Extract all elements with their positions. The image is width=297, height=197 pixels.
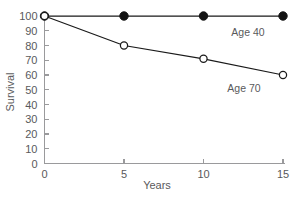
x-tick-label-5: 5 — [121, 168, 127, 180]
x-tick-label-15: 15 — [277, 168, 289, 180]
y-tick-label-20: 20 — [25, 128, 37, 140]
y-tick-label-100: 100 — [19, 10, 37, 22]
series-age-40 — [40, 12, 287, 20]
x-axis-title: Years — [143, 179, 171, 191]
data-point-marker — [279, 12, 287, 20]
data-point-marker — [120, 12, 128, 20]
series-label-age-70: Age 70 — [227, 82, 260, 94]
x-tick-label-0: 0 — [41, 168, 47, 180]
survival-chart: 100 90 80 70 60 50 40 30 20 10 0 0 5 10 … — [0, 0, 297, 197]
y-tick-label-40: 40 — [25, 99, 37, 111]
data-point-marker — [199, 12, 207, 20]
x-axis-tick-marks — [45, 159, 284, 164]
y-tick-label-0: 0 — [31, 158, 37, 170]
data-point-marker — [41, 12, 48, 19]
y-axis-tick-labels: 100 90 80 70 60 50 40 30 20 10 0 — [19, 10, 37, 170]
data-point-marker — [279, 71, 286, 78]
y-tick-label-80: 80 — [25, 40, 37, 52]
data-point-marker — [200, 55, 207, 62]
x-axis-tick-labels: 0 5 10 15 — [41, 168, 289, 180]
y-tick-label-90: 90 — [25, 25, 37, 37]
y-tick-label-60: 60 — [25, 69, 37, 81]
y-axis-tick-marks — [45, 16, 49, 164]
x-tick-label-10: 10 — [197, 168, 209, 180]
y-tick-label-30: 30 — [25, 113, 37, 125]
series-age-70 — [41, 12, 287, 78]
series-label-age-40: Age 40 — [231, 26, 264, 38]
data-point-marker — [120, 42, 127, 49]
y-tick-label-10: 10 — [25, 143, 37, 155]
series-age-70-line — [45, 16, 284, 75]
y-axis-title: Survival — [4, 72, 16, 111]
y-tick-label-50: 50 — [25, 84, 37, 96]
chart-canvas: 100 90 80 70 60 50 40 30 20 10 0 0 5 10 … — [0, 0, 297, 197]
y-tick-label-70: 70 — [25, 54, 37, 66]
